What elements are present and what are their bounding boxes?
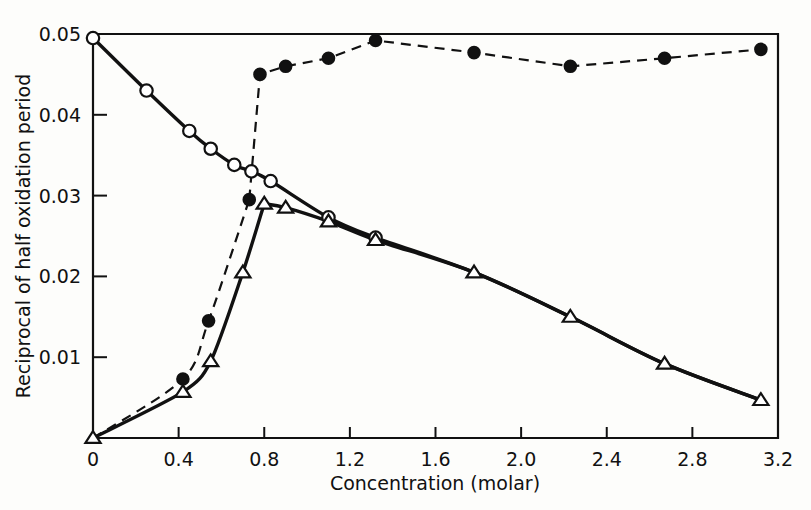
data-point-open-circle [245,165,257,177]
y-axis-tick-labels: 0.010.020.030.040.05 [39,23,81,368]
y-tick-label: 0.01 [39,346,81,368]
x-tick-label: 2.0 [506,448,536,470]
data-point-filled-circle [280,61,292,73]
x-tick-label: 2.8 [677,448,707,470]
x-tick-label: 1.2 [335,448,365,470]
data-point-open-circle [87,32,99,44]
data-point-open-circle [140,84,152,96]
data-point-filled-circle [659,52,671,64]
data-point-filled-circle [254,69,266,81]
data-point-filled-circle [370,35,382,47]
data-point-filled-circle [468,47,480,59]
data-point-open-triangle [203,354,218,366]
y-tick-label: 0.03 [39,185,81,207]
x-axis-ticks [179,427,693,438]
data-point-open-circle [183,125,195,137]
x-axis-title: Concentration (molar) [330,472,540,494]
x-tick-label: 3.2 [763,448,793,470]
open-circle-curve [93,38,761,400]
series-filled-circle-dashed [93,40,761,438]
data-point-filled-circle [565,61,577,73]
x-tick-label: 0.8 [249,448,279,470]
x-tick-label: 2.4 [592,448,622,470]
y-axis-title: Reciprocal of half oxidation period [12,74,34,399]
data-point-filled-circle [755,44,767,56]
triangle-decline-curve [264,204,761,400]
chart-figure: 00.40.81.21.62.02.42.83.2 0.010.020.030.… [0,0,811,510]
data-point-filled-circle [243,194,255,206]
chart-canvas: 00.40.81.21.62.02.42.83.2 0.010.020.030.… [0,0,811,510]
x-tick-label: 0 [87,448,99,470]
plot-frame [93,34,778,438]
series-open-triangle [93,204,761,438]
x-tick-label: 1.6 [420,448,450,470]
y-tick-label: 0.02 [39,265,81,287]
series-open-circle [93,38,761,400]
data-point-open-circle [264,175,276,187]
data-point-filled-circle [203,315,215,327]
data-point-open-circle [228,159,240,171]
data-point-open-triangle [235,266,250,278]
y-axis-ticks [93,115,107,357]
x-axis-tick-labels: 00.40.81.21.62.02.42.83.2 [87,448,793,470]
x-tick-label: 0.4 [164,448,194,470]
y-tick-label: 0.04 [39,104,81,126]
triangle-rise-curve [93,204,264,438]
data-point-filled-circle [323,52,335,64]
data-markers [85,32,768,443]
y-tick-label: 0.05 [39,23,81,45]
data-point-open-circle [205,143,217,155]
data-series-layer [85,32,768,443]
